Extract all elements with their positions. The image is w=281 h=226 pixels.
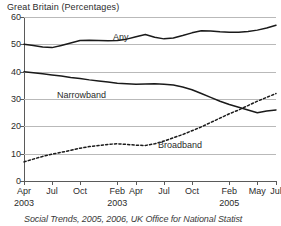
series-label-broadband: Broadband (158, 141, 202, 150)
series-label-any: Any (113, 33, 129, 42)
chart-container: Great Britain (Percentages) 010203040506… (0, 0, 281, 226)
series-lines (0, 0, 281, 226)
source-note: Social Trends, 2005, 2006, UK Office for… (24, 214, 242, 224)
series-line-any (24, 25, 276, 47)
series-label-narrowband: Narrowband (57, 91, 106, 100)
series-line-broadband (24, 94, 276, 162)
